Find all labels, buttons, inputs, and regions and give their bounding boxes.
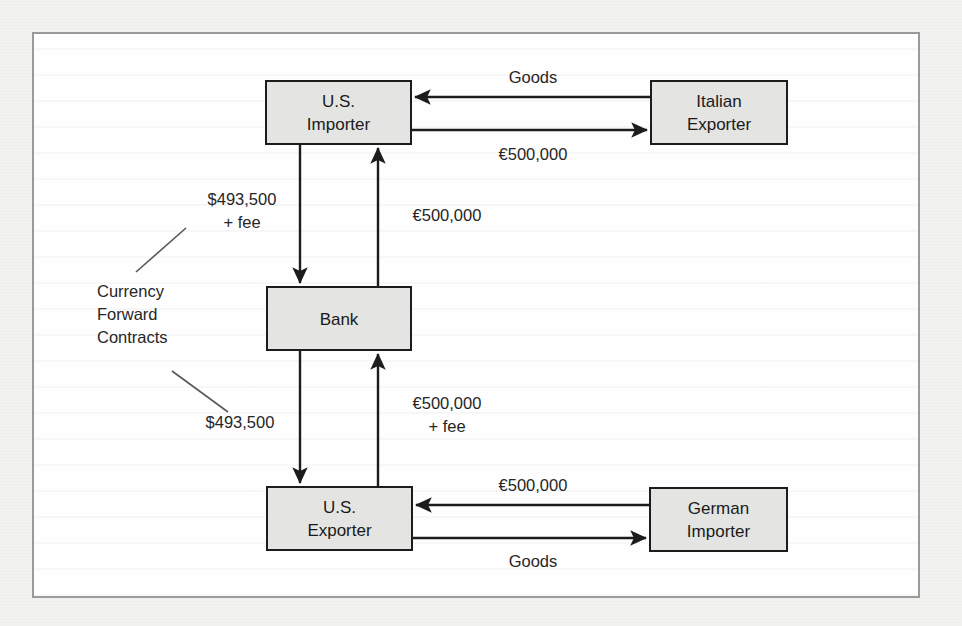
node-us-exporter[interactable]: U.S. Exporter — [267, 487, 412, 550]
edge-euros-to-us-exporter: €500,000 — [416, 476, 650, 505]
edge-euros-to-us-exporter-label: €500,000 — [499, 476, 568, 494]
annotation-label-line1: Currency — [97, 282, 165, 300]
node-german-importer-label-line1: German — [688, 499, 749, 518]
edge-euros-exporter-to-bank-label-line1: €500,000 — [413, 394, 482, 412]
edge-dollars-bank-to-exporter: $493,500 — [206, 350, 300, 483]
node-italian-exporter-label-line2: Exporter — [687, 115, 752, 134]
edge-euros-exporter-to-bank-label-line2: + fee — [428, 417, 465, 435]
edge-euros-to-italian-exporter-label: €500,000 — [499, 145, 568, 163]
node-us-importer[interactable]: U.S. Importer — [266, 81, 411, 144]
node-us-exporter-label-line1: U.S. — [323, 498, 356, 517]
node-us-importer-box — [266, 81, 411, 144]
node-german-importer[interactable]: German Importer — [650, 488, 787, 551]
figure-page: U.S. Importer Italian Exporter Bank U.S.… — [0, 0, 962, 626]
edge-goods-to-us-importer: Goods — [415, 68, 651, 97]
edge-euros-exporter-to-bank: €500,000 + fee — [378, 354, 481, 487]
node-italian-exporter[interactable]: Italian Exporter — [651, 81, 787, 144]
node-bank-label: Bank — [320, 310, 359, 329]
flow-diagram: U.S. Importer Italian Exporter Bank U.S.… — [0, 0, 962, 626]
annotation-leader-line-lower — [172, 371, 228, 412]
edge-dollars-importer-to-bank: $493,500 + fee — [208, 144, 300, 283]
annotation-label-line2: Forward — [97, 305, 158, 323]
node-german-importer-label-line2: Importer — [687, 522, 751, 541]
node-us-importer-label-line1: U.S. — [322, 92, 355, 111]
edge-euros-to-italian-exporter: €500,000 — [411, 130, 647, 163]
edge-euros-bank-to-importer-label: €500,000 — [413, 206, 482, 224]
node-italian-exporter-box — [651, 81, 787, 144]
node-us-importer-label-line2: Importer — [307, 115, 371, 134]
node-bank[interactable]: Bank — [267, 287, 411, 350]
node-us-exporter-box — [267, 487, 412, 550]
node-us-exporter-label-line2: Exporter — [307, 521, 372, 540]
node-italian-exporter-label-line1: Italian — [696, 92, 741, 111]
node-german-importer-box — [650, 488, 787, 551]
edge-dollars-importer-to-bank-label-line2: + fee — [223, 213, 260, 231]
edge-goods-to-german-importer: Goods — [412, 538, 646, 570]
annotation-label-line3: Contracts — [97, 328, 168, 346]
edge-dollars-importer-to-bank-label-line1: $493,500 — [208, 190, 277, 208]
edge-goods-to-us-importer-label: Goods — [509, 68, 558, 86]
edge-euros-bank-to-importer: €500,000 — [378, 148, 481, 287]
annotation-currency-forward-contracts: Currency Forward Contracts — [97, 228, 228, 412]
annotation-leader-line-upper — [136, 228, 186, 272]
edge-dollars-bank-to-exporter-label: $493,500 — [206, 413, 275, 431]
edge-goods-to-german-importer-label: Goods — [509, 552, 558, 570]
